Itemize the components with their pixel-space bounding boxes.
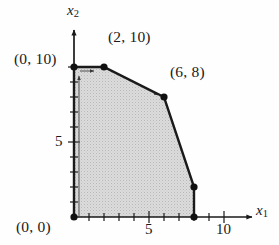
vertex-point-2-10 [100,63,107,70]
vertex-point-0-10 [70,63,77,70]
y-axis-label-base: x [67,2,74,18]
vertex-label-0-0: (0, 0) [16,219,51,235]
vertex-label-2-10: (2, 10) [108,29,151,45]
vertex-point-8-2 [190,183,197,190]
vertex-label-6-8: (6, 8) [170,64,205,80]
x-tick-label-5: 5 [145,222,153,237]
y-tick-label-5: 5 [55,134,63,149]
x-tick-label-10: 10 [216,222,231,237]
vertex-point-8-0 [190,213,197,220]
vertex-point-6-8 [160,93,167,100]
feasible-region-figure: (0, 10) (2, 10) (6, 8) (0, 0) 5 10 5 x2 … [0,0,279,245]
y-axis-label-subscript: 2 [74,8,79,19]
vertex-point-0-0 [70,213,77,220]
y-axis-label: x2 [67,3,79,20]
x-axis-label-subscript: 1 [263,208,268,219]
feasible-region-shading [74,67,194,217]
vertex-label-0-10: (0, 10) [14,51,57,67]
x-axis-label-base: x [256,202,263,218]
x-axis-label: x1 [256,203,268,220]
